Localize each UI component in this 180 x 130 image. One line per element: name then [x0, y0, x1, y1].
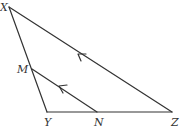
label-z: Z: [170, 116, 179, 129]
segment-xy: [9, 7, 47, 112]
parallel-arrow-icon-xz: [78, 54, 86, 61]
segment-mn: [32, 69, 97, 112]
segment-xz: [9, 7, 172, 112]
triangle-diagram: X M Y N Z: [0, 0, 180, 130]
label-x: X: [0, 1, 9, 14]
label-m: M: [16, 63, 29, 76]
label-y: Y: [44, 116, 53, 129]
label-n: N: [93, 116, 104, 129]
